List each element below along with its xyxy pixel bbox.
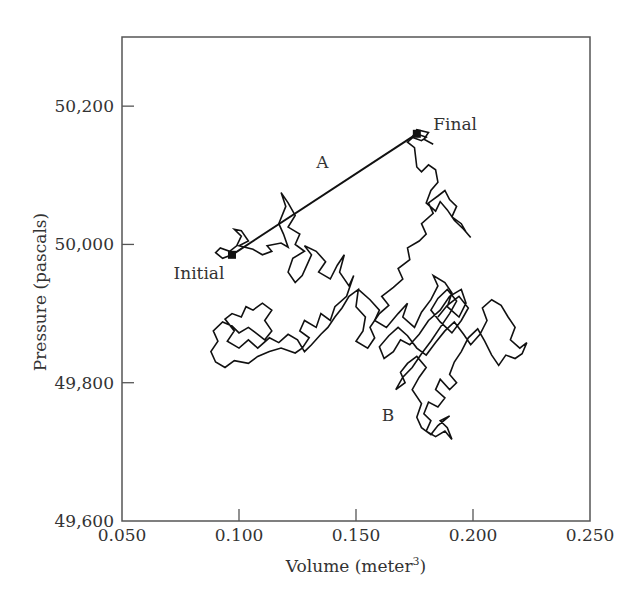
y-axis-title: Pressure (pascals) [30,213,50,371]
annotation-final: Final [433,114,477,134]
annotation-a: A [315,152,329,172]
x-axis-title-base: Volume (meter [285,556,414,576]
initial-point-marker [228,251,236,259]
y-tick-label: 50,000 [55,234,114,254]
annotation-initial: Initial [173,263,224,283]
final-point-marker [413,130,421,138]
x-tick-label: 0.200 [449,525,498,545]
pv-diagram-chart: 0.0500.1000.1500.2000.250 49,60049,80050… [0,0,644,608]
x-tick-label: 0.100 [215,525,264,545]
y-tick-label: 50,200 [55,96,114,116]
annotation-b: B [382,405,395,425]
x-tick-label: 0.150 [332,525,381,545]
x-tick-label: 0.250 [566,525,615,545]
x-axis-title-superscript: 3 [413,555,420,568]
y-tick-label: 49,600 [55,511,114,531]
x-axis-title: Volume (meter3) [285,555,426,576]
y-tick-label: 49,800 [55,373,114,393]
x-axis-title-close: ) [420,556,427,576]
